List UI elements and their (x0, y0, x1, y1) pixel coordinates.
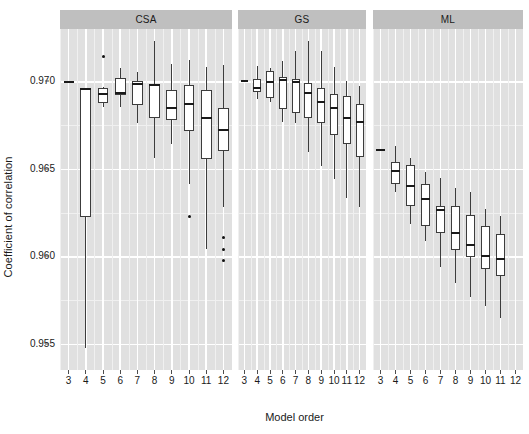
x-axis-gs: 3456789101112 (238, 370, 366, 392)
outlier-point (222, 259, 225, 262)
x-tick-label: 8 (453, 375, 459, 386)
x-tick-label: 3 (242, 375, 248, 386)
y-tick-mark (45, 168, 49, 169)
whisker-upper (223, 65, 224, 108)
x-tick-label: 8 (306, 375, 312, 386)
x-tick-label: 4 (254, 375, 260, 386)
x-tick-label: 6 (280, 375, 286, 386)
x-tick-mark (282, 370, 283, 374)
box-iqr (356, 104, 364, 156)
x-tick-mark (223, 370, 224, 374)
median-line (496, 258, 505, 260)
box-iqr (496, 234, 505, 276)
x-tick-mark (380, 370, 381, 374)
y-tick-mark (45, 81, 49, 82)
x-tick-label: 10 (480, 375, 491, 386)
y-tick-mark (45, 256, 49, 257)
x-tick-mark (500, 370, 501, 374)
plot-area (60, 29, 232, 370)
x-tick-label: 9 (468, 375, 474, 386)
x-tick-mark (257, 370, 258, 374)
x-tick-label: 12 (354, 375, 365, 386)
x-axis-title: Model order (60, 411, 529, 427)
x-tick-mark (85, 370, 86, 374)
plot-area (373, 29, 523, 370)
x-tick-mark (295, 370, 296, 374)
x-tick-mark (334, 370, 335, 374)
x-tick-label: 11 (342, 375, 352, 386)
x-tick-mark (321, 370, 322, 374)
panel-strip-label: ML (373, 10, 523, 29)
x-tick-mark (270, 370, 271, 374)
panel-strip-label: GS (238, 10, 366, 29)
x-tick-mark (395, 370, 396, 374)
whisker-upper (500, 216, 501, 233)
x-tick-mark (515, 370, 516, 374)
x-tick-label: 6 (117, 375, 123, 386)
chart-root: Coefficient of correlation Model order 0… (0, 0, 529, 434)
x-tick-label: 11 (201, 375, 211, 386)
x-tick-label: 7 (135, 375, 141, 386)
x-tick-label: 5 (267, 375, 273, 386)
x-tick-mark (68, 370, 69, 374)
whisker-lower (223, 151, 224, 208)
x-axis-csa: 3456789101112 (60, 370, 232, 392)
y-tick-mark (45, 343, 49, 344)
x-tick-mark (485, 370, 486, 374)
x-tick-label: 12 (218, 375, 229, 386)
x-tick-mark (103, 370, 104, 374)
x-tick-mark (189, 370, 190, 374)
x-tick-mark (154, 370, 155, 374)
x-tick-label: 9 (318, 375, 324, 386)
x-tick-mark (308, 370, 309, 374)
x-tick-label: 4 (83, 375, 89, 386)
outlier-point (222, 236, 225, 239)
x-tick-label: 9 (169, 375, 175, 386)
x-tick-label: 8 (152, 375, 158, 386)
x-tick-mark (244, 370, 245, 374)
x-tick-label: 10 (328, 375, 339, 386)
x-tick-label: 12 (510, 375, 521, 386)
x-tick-label: 10 (183, 375, 194, 386)
x-tick-label: 11 (495, 375, 505, 386)
median-line (356, 121, 364, 123)
x-axis-ml: 3456789101112 (373, 370, 523, 392)
x-tick-mark (120, 370, 121, 374)
x-tick-mark (470, 370, 471, 374)
x-tick-label: 6 (423, 375, 429, 386)
x-tick-mark (206, 370, 207, 374)
y-axis: 0.9700.9650.9600.955 (0, 0, 55, 434)
whisker-lower (500, 276, 501, 318)
median-line (218, 129, 229, 131)
whisker-upper (359, 86, 360, 104)
x-tick-mark (346, 370, 347, 374)
x-tick-mark (440, 370, 441, 374)
x-tick-label: 3 (378, 375, 384, 386)
x-tick-mark (171, 370, 172, 374)
panel-ml: ML (373, 10, 523, 370)
x-tick-label: 3 (66, 375, 72, 386)
x-tick-label: 5 (100, 375, 106, 386)
x-tick-label: 5 (408, 375, 414, 386)
plot-area (238, 29, 366, 370)
boxplot-ml-order-11 (373, 29, 523, 370)
panel-gs: GS (238, 10, 366, 370)
boxplot-csa-order-12 (60, 29, 232, 370)
x-tick-mark (410, 370, 411, 374)
x-tick-mark (455, 370, 456, 374)
whisker-lower (359, 157, 360, 208)
panel-csa: CSA (60, 10, 232, 370)
x-tick-label: 7 (438, 375, 444, 386)
x-tick-mark (425, 370, 426, 374)
panel-strip-label: CSA (60, 10, 232, 29)
boxplot-gs-order-12 (238, 29, 366, 370)
outlier-point (222, 248, 225, 251)
x-tick-mark (359, 370, 360, 374)
x-tick-label: 7 (293, 375, 299, 386)
x-tick-label: 4 (393, 375, 399, 386)
x-tick-mark (137, 370, 138, 374)
